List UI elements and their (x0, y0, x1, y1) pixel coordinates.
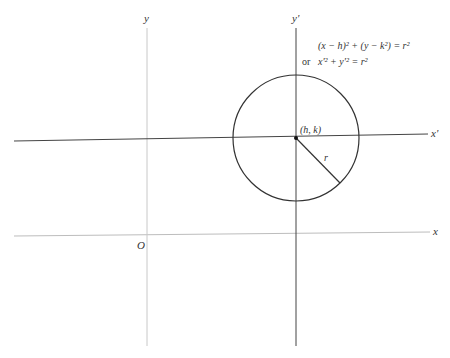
x-axis-label: x (432, 225, 438, 237)
translated-circle-diagram: y y' x x' O (h, k) r (x − h)² + (y − k²)… (0, 0, 450, 358)
equation-or: or (302, 56, 311, 67)
radius-label: r (324, 152, 328, 163)
origin-label: O (137, 239, 145, 251)
x-axis (14, 232, 430, 236)
x-prime-axis-label: x' (430, 127, 439, 139)
equation-line-1: (x − h)² + (y − k²) = r² (318, 40, 411, 52)
center-point (294, 136, 298, 140)
y-axis-label: y (143, 12, 149, 24)
y-prime-axis-label: y' (291, 12, 300, 24)
radius-segment (296, 138, 340, 183)
x-prime-axis (14, 134, 428, 141)
center-label: (h, k) (300, 124, 322, 136)
equation-line-2: x'² + y'² = r² (317, 56, 369, 67)
